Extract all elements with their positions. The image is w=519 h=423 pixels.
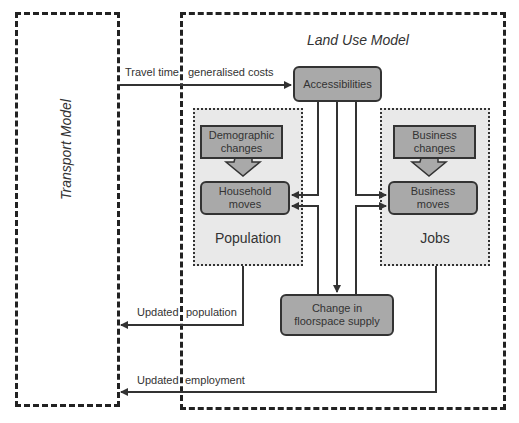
accessibilities-node: Accessibilities xyxy=(293,66,382,102)
business-changes-node: Business changes xyxy=(393,125,476,159)
updated-population-label-right: population xyxy=(186,306,237,318)
updated-population-label-left: Updated xyxy=(137,306,179,318)
updated-employment-label-left: Updated xyxy=(137,374,179,386)
floorspace-supply-node: Change in floorspace supply xyxy=(280,294,394,336)
generalised-costs-label: generalised costs xyxy=(188,66,274,78)
travel-time-label: Travel time, xyxy=(125,66,182,78)
household-moves-line1: Household xyxy=(219,185,272,198)
business-moves-line1: Business xyxy=(411,185,456,198)
business-changes-line2: changes xyxy=(414,142,456,155)
accessibilities-label: Accessibilities xyxy=(303,78,371,91)
household-moves-line2: moves xyxy=(229,198,261,211)
demographic-arrow-icon xyxy=(226,158,260,176)
floorspace-line2: floorspace supply xyxy=(294,315,380,328)
demographic-changes-line2: changes xyxy=(221,142,263,155)
household-moves-node: Household moves xyxy=(200,181,290,215)
business-changes-line1: Business xyxy=(412,129,457,142)
demographic-changes-line1: Demographic xyxy=(209,129,274,142)
business-arrow-icon xyxy=(412,158,446,176)
floorspace-line1: Change in xyxy=(312,302,362,315)
business-moves-line2: moves xyxy=(417,198,449,211)
business-moves-node: Business moves xyxy=(388,181,478,215)
demographic-changes-node: Demographic changes xyxy=(200,125,283,159)
updated-employment-label-right: employment xyxy=(185,374,245,386)
